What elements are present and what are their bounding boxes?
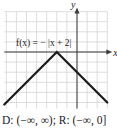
x-axis-arrow-icon	[106, 50, 112, 55]
chart: x y f(x) = − |x + 2|	[0, 0, 117, 112]
x-axis-label: x	[112, 47, 117, 58]
y-axis-label: y	[70, 0, 76, 10]
function-graph-line	[4, 52, 107, 105]
domain-range-caption: D: (−∞, ∞); R: (−∞, 0]	[2, 114, 106, 126]
grid	[4, 12, 107, 109]
function-label: f(x) = − |x + 2|	[16, 38, 72, 49]
